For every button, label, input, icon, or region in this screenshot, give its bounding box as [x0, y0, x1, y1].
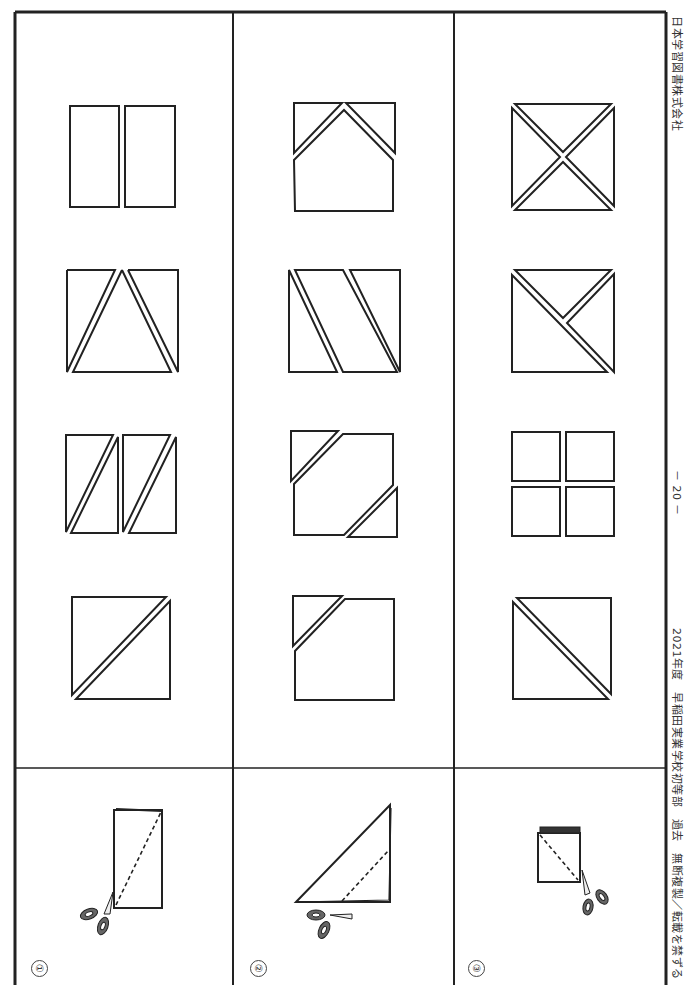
publisher-label: 日本学習図書株式会社	[670, 16, 686, 131]
scissors-icon	[307, 910, 352, 940]
scissors-icon	[582, 870, 611, 916]
q2-choice-parallel-strips	[289, 270, 400, 372]
q3-instruction-illustration	[538, 827, 611, 916]
q2-choice-two-corners-cut	[291, 431, 397, 537]
q2-instruction-illustration	[296, 805, 391, 940]
q1-choice-two-rectangles	[70, 106, 175, 207]
scissors-icon	[79, 892, 113, 936]
page-number: － 20 －	[670, 470, 686, 516]
q1-instruction-illustration	[79, 809, 162, 936]
question-number-3: ③	[468, 960, 485, 977]
q3-choice-square-diagonal	[513, 598, 611, 699]
q3-choices	[512, 104, 614, 699]
q1-choice-triangle-center	[67, 270, 178, 372]
question-number-2: ②	[250, 960, 267, 977]
q1-choices	[66, 106, 178, 699]
q1-choice-two-split-rectangles	[66, 435, 176, 533]
q3-choice-four-squares	[512, 432, 614, 536]
q2-choices	[289, 103, 400, 700]
q1-choice-square-diagonal	[72, 597, 170, 699]
source-notice: 2021年度 早稲田実業学校初等部 過去 無断複製／転載を禁ずる	[670, 628, 686, 980]
q3-choice-three-triangles	[512, 270, 614, 372]
q2-choice-one-corner-cut	[293, 596, 394, 700]
q2-choice-house-shape	[294, 103, 395, 211]
worksheet-page: 問題27	[0, 0, 689, 985]
q3-choice-four-triangles	[512, 104, 614, 210]
question-number-1: ①	[31, 960, 48, 977]
worksheet-drawing	[0, 0, 689, 985]
